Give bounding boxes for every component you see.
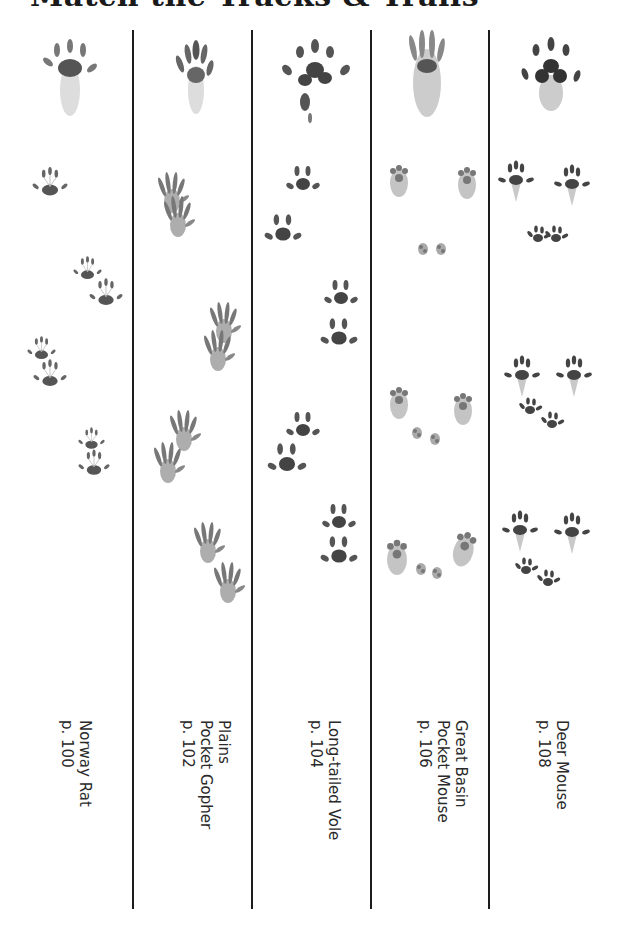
track-group <box>536 570 560 590</box>
species-label: Long-tailed Vole p. 104 <box>307 720 343 840</box>
track-group <box>514 558 538 578</box>
track-group <box>502 355 542 401</box>
track-group <box>30 356 70 391</box>
track-group <box>263 440 311 484</box>
track-group <box>315 532 363 576</box>
species-label: Norway Rat p. 100 <box>58 720 94 807</box>
column-norway-rat: Norway Rat p. 100 <box>0 0 132 934</box>
track-group <box>434 240 448 258</box>
track-group <box>315 314 363 358</box>
species-label: Great Basin Pocket Mouse p. 106 <box>416 720 470 823</box>
species-label: Plains Pocket Gopher p. 102 <box>179 720 233 829</box>
track-group <box>384 162 414 202</box>
track-group <box>552 512 592 558</box>
track-group <box>518 398 542 418</box>
track-group <box>544 226 568 244</box>
column-plains-pocket-gopher: Plains Pocket Gopher p. 102 <box>134 0 251 934</box>
track-group <box>452 164 482 204</box>
track-group <box>184 510 244 620</box>
track-group <box>198 300 242 395</box>
track-group <box>410 424 424 442</box>
track-group <box>146 400 206 500</box>
hind-foot-print <box>275 30 355 125</box>
track-group <box>416 240 430 258</box>
track-group <box>74 445 114 480</box>
track-group <box>428 430 442 448</box>
track-group <box>414 560 428 578</box>
track-group <box>448 530 482 580</box>
track-group <box>86 275 126 310</box>
track-group <box>448 390 478 436</box>
hind-foot-print <box>402 28 452 123</box>
hind-foot-print <box>40 30 100 120</box>
track-group <box>554 355 594 401</box>
track-group <box>540 412 564 432</box>
hind-foot-print <box>516 28 586 123</box>
track-group <box>430 564 444 582</box>
track-group <box>261 210 305 254</box>
track-group <box>380 538 414 588</box>
column-great-basin-pocket-mouse: Great Basin Pocket Mouse p. 106 <box>372 0 488 934</box>
track-group <box>552 164 592 210</box>
column-long-tailed-vole: Long-tailed Vole p. 104 <box>253 0 370 934</box>
track-group <box>500 510 540 556</box>
track-group <box>321 276 361 316</box>
column-deer-mouse: Deer Mouse p. 108 <box>490 0 617 934</box>
track-group <box>496 160 536 206</box>
track-group <box>30 165 70 215</box>
track-group <box>283 162 323 202</box>
hind-foot-print <box>166 30 226 120</box>
track-group <box>150 170 194 265</box>
species-label: Deer Mouse p. 108 <box>535 720 571 810</box>
